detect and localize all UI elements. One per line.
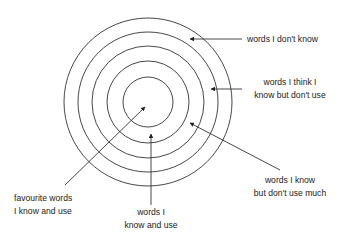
arrow-know-not-much [190, 123, 280, 170]
ring-3 [92, 46, 204, 158]
ring-4 [78, 32, 218, 172]
label-line: but don't use much [254, 187, 326, 200]
label-line: know and use [124, 219, 177, 232]
label-line: words I don't know [247, 33, 318, 46]
label-know-use: words I know and use [124, 206, 177, 231]
label-line: favourite words [14, 192, 72, 205]
ring-inner [123, 77, 173, 127]
label-line: words I know [254, 174, 326, 187]
label-line: words I think I [254, 76, 325, 89]
label-favourite: favourite words I know and use [14, 192, 72, 217]
label-dont-know: words I don't know [247, 33, 318, 46]
label-line: I know and use [14, 205, 72, 218]
label-think-know: words I think I know but don't use [254, 76, 325, 101]
label-line: know but don't use [254, 89, 325, 102]
label-line: words I [124, 206, 177, 219]
label-know-not-much: words I know but don't use much [254, 174, 326, 199]
arrow-favourite [65, 107, 145, 185]
ring-2 [107, 61, 189, 143]
